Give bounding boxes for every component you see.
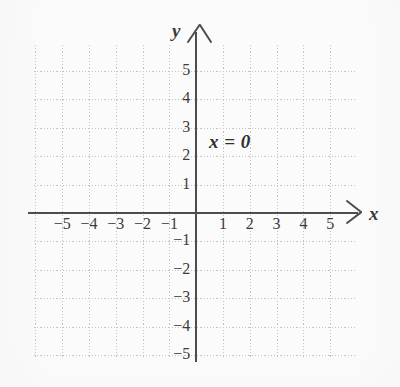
gridline-vertical xyxy=(89,45,90,358)
gridline-vertical xyxy=(330,45,331,358)
gridline-vertical xyxy=(277,45,278,358)
x-axis-line xyxy=(28,212,358,214)
x-tick-label: −3 xyxy=(104,215,128,233)
gridline-vertical xyxy=(223,45,224,358)
y-tick-label: −3 xyxy=(164,288,190,306)
x-tick-label: −5 xyxy=(50,215,74,233)
y-tick-label: 5 xyxy=(164,61,190,79)
x-axis-arrow-icon xyxy=(346,196,366,228)
x-tick-label: −4 xyxy=(77,215,101,233)
x-tick-label: 5 xyxy=(318,215,342,233)
y-tick-label: −2 xyxy=(164,260,190,278)
x-tick-label: −1 xyxy=(157,215,181,233)
gridline-vertical xyxy=(116,45,117,358)
gridline-vertical xyxy=(250,45,251,358)
gridline-vertical xyxy=(303,45,304,358)
equation-annotation: x = 0 xyxy=(209,131,251,153)
graph-figure: x y x = 0 −5−4−3−2−112345 54321−1−2−3−4−… xyxy=(0,0,400,387)
y-tick-label: 2 xyxy=(164,146,190,164)
gridline-vertical xyxy=(35,45,36,358)
x-tick-label: 2 xyxy=(238,215,262,233)
y-axis-arrow-icon xyxy=(184,22,216,44)
y-tick-label: −1 xyxy=(164,231,190,249)
x-tick-label: −2 xyxy=(131,215,155,233)
gridline-vertical xyxy=(62,45,63,358)
x-tick-label: 3 xyxy=(265,215,289,233)
y-tick-label: 4 xyxy=(164,89,190,107)
x-axis-label: x xyxy=(369,203,379,225)
gridline-vertical xyxy=(143,45,144,358)
y-tick-label: 1 xyxy=(164,175,190,193)
y-tick-label: 3 xyxy=(164,118,190,136)
x-tick-label: 1 xyxy=(211,215,235,233)
y-axis-line xyxy=(195,32,197,362)
y-axis-label: y xyxy=(172,20,180,42)
y-tick-label: −4 xyxy=(164,317,190,335)
y-tick-label: −5 xyxy=(164,345,190,363)
x-tick-label: 4 xyxy=(291,215,315,233)
